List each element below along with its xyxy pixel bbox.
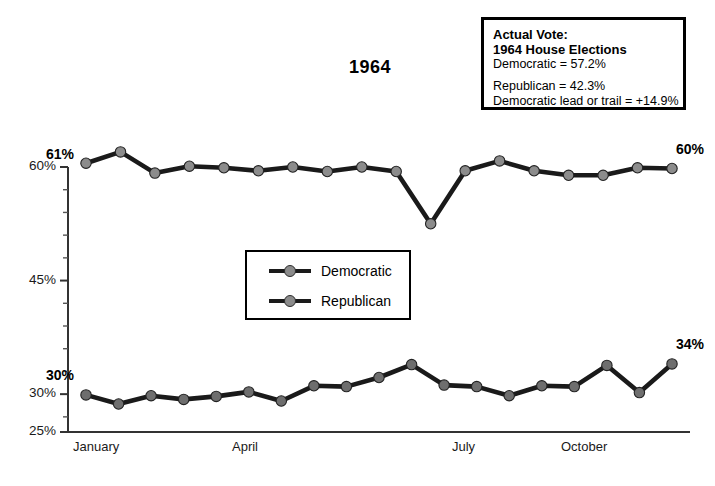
legend-item-republican: Republican [269, 293, 391, 309]
legend-label-democratic: Democratic [321, 263, 392, 279]
x-tick-label: January [73, 439, 119, 454]
end-value-label: 34% [676, 336, 704, 352]
data-point [115, 147, 125, 157]
data-point [150, 168, 160, 178]
data-point [276, 396, 286, 406]
chart-root: 1964 Actual Vote: 1964 House Elections D… [0, 0, 715, 486]
legend-line-icon [269, 265, 311, 277]
data-point [406, 359, 416, 369]
y-tick-label: 25% [10, 423, 56, 438]
x-tick-label: October [561, 439, 607, 454]
data-point [179, 394, 189, 404]
end-value-label: 60% [676, 141, 704, 157]
data-point [472, 381, 482, 391]
series-republican [81, 359, 677, 410]
data-point [667, 359, 677, 369]
data-point [219, 163, 229, 173]
data-point [322, 166, 332, 176]
x-tick-label: July [452, 439, 475, 454]
data-point [494, 156, 504, 166]
data-point [426, 219, 436, 229]
plot-area [0, 0, 715, 486]
start-value-label: 30% [46, 367, 74, 383]
series-line [86, 152, 672, 224]
data-point [598, 170, 608, 180]
data-point [146, 391, 156, 401]
data-point [602, 360, 612, 370]
data-point [569, 381, 579, 391]
legend: Democratic Republican [245, 250, 411, 320]
data-point [244, 387, 254, 397]
data-point [667, 163, 677, 173]
data-point [253, 166, 263, 176]
series-democratic [81, 147, 677, 229]
y-tick-label: 45% [10, 272, 56, 287]
data-point [634, 387, 644, 397]
data-point [504, 391, 514, 401]
y-tick-label: 30% [10, 385, 56, 400]
data-point [211, 391, 221, 401]
data-point [357, 162, 367, 172]
data-point [341, 381, 351, 391]
series-line [86, 364, 672, 404]
data-point [113, 399, 123, 409]
data-point [529, 166, 539, 176]
x-tick-label: April [232, 439, 258, 454]
data-point [81, 158, 91, 168]
legend-item-democratic: Democratic [269, 263, 392, 279]
data-point [439, 380, 449, 390]
data-point [537, 381, 547, 391]
data-point [460, 166, 470, 176]
data-point [81, 390, 91, 400]
data-point [374, 372, 384, 382]
data-point [309, 381, 319, 391]
data-point [184, 161, 194, 171]
start-value-label: 61% [46, 146, 74, 162]
data-point [632, 163, 642, 173]
legend-label-republican: Republican [321, 293, 391, 309]
data-point [288, 162, 298, 172]
data-point [563, 170, 573, 180]
data-point [391, 166, 401, 176]
legend-line-icon [269, 295, 311, 307]
